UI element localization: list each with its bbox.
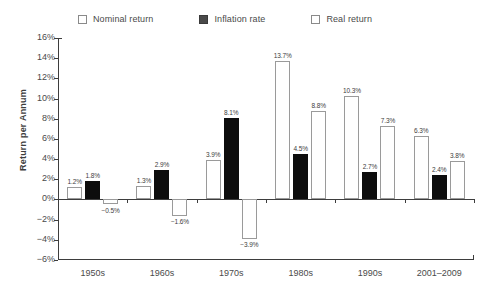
y-tick-label: 8% xyxy=(42,113,55,123)
x-category-label: 1980s xyxy=(288,268,313,278)
bar-group: 1.3%2.9%−1.6% xyxy=(127,38,196,260)
bar-value-label: 13.7% xyxy=(269,52,296,59)
legend-item-inflation-rate[interactable]: Inflation rate xyxy=(199,14,265,24)
x-category-label: 1990s xyxy=(358,268,383,278)
y-tick-label: 14% xyxy=(37,52,55,62)
filled-square-icon xyxy=(199,15,208,24)
bar[interactable] xyxy=(275,61,290,199)
y-tick-label: 6% xyxy=(42,133,55,143)
bar[interactable] xyxy=(362,172,377,199)
plot-area: 16%14%12%10%8%6%4%2%0%−2%−4%−6% 1.2%1.8%… xyxy=(58,38,474,260)
y-tick-label: 12% xyxy=(37,72,55,82)
bar[interactable] xyxy=(311,111,326,200)
bar[interactable] xyxy=(67,187,82,199)
bar[interactable] xyxy=(344,96,359,200)
bar-value-label: 6.3% xyxy=(408,127,435,134)
bar-group: 10.3%2.7%7.3% xyxy=(335,38,404,260)
bar[interactable] xyxy=(293,154,308,199)
y-tick-label: 2% xyxy=(42,173,55,183)
bar[interactable] xyxy=(85,181,100,199)
y-tick-label: −2% xyxy=(37,214,55,224)
bar-value-label: 2.7% xyxy=(356,163,383,170)
legend-label: Inflation rate xyxy=(214,14,265,24)
bar-group: 3.9%8.1%−3.9% xyxy=(197,38,266,260)
bar-value-label: 8.1% xyxy=(218,109,245,116)
bar[interactable] xyxy=(154,170,169,199)
x-tick-mark xyxy=(474,199,475,203)
bar-value-label: 2.4% xyxy=(426,166,453,173)
bar[interactable] xyxy=(103,199,118,204)
legend-item-nominal-return[interactable]: Nominal return xyxy=(78,14,153,24)
bar[interactable] xyxy=(172,199,187,215)
y-tick-label: 10% xyxy=(37,93,55,103)
y-tick-label: 4% xyxy=(42,153,55,163)
legend-label: Nominal return xyxy=(93,14,153,24)
bar[interactable] xyxy=(206,160,221,199)
bar[interactable] xyxy=(136,186,151,199)
bar-group: 13.7%4.5%8.8% xyxy=(266,38,335,260)
y-tick-label: −6% xyxy=(37,254,55,264)
x-category-label: 1950s xyxy=(80,268,105,278)
bar-value-label: 1.2% xyxy=(61,178,88,185)
x-category-label: 1970s xyxy=(219,268,244,278)
y-tick-label: 0% xyxy=(42,193,55,203)
bar[interactable] xyxy=(380,126,395,200)
open-square-icon xyxy=(311,15,320,24)
bar-value-label: −0.5% xyxy=(97,207,124,214)
bar-value-label: 8.8% xyxy=(305,102,332,109)
bar[interactable] xyxy=(450,161,465,199)
bar-value-label: 3.8% xyxy=(444,152,471,159)
bar-value-label: 7.3% xyxy=(374,117,401,124)
bar-group: 1.2%1.8%−0.5% xyxy=(58,38,127,260)
bar[interactable] xyxy=(432,175,447,199)
bar-group: 6.3%2.4%3.8% xyxy=(405,38,474,260)
x-category-label: 2001–2009 xyxy=(417,268,462,278)
bar[interactable] xyxy=(242,199,257,238)
x-category-label: 1960s xyxy=(150,268,175,278)
bar-value-label: 2.9% xyxy=(148,161,175,168)
y-tick-label: −4% xyxy=(37,234,55,244)
y-axis-title: Return per Annum xyxy=(18,70,28,190)
bar[interactable] xyxy=(224,118,239,200)
chart-legend: Nominal return Inflation rate Real retur… xyxy=(78,11,408,27)
chart-screenshot: Nominal return Inflation rate Real retur… xyxy=(0,0,479,288)
bar-value-label: 1.3% xyxy=(130,177,157,184)
open-square-icon xyxy=(78,15,87,24)
bar-value-label: 4.5% xyxy=(287,145,314,152)
bar-value-label: 1.8% xyxy=(79,172,106,179)
bar-value-label: 3.9% xyxy=(200,151,227,158)
y-tick-label: 16% xyxy=(37,32,55,42)
bar-value-label: −3.9% xyxy=(236,241,263,248)
bar-value-label: 10.3% xyxy=(338,87,365,94)
legend-label: Real return xyxy=(326,14,372,24)
legend-item-real-return[interactable]: Real return xyxy=(311,14,372,24)
bar-value-label: −1.6% xyxy=(166,218,193,225)
